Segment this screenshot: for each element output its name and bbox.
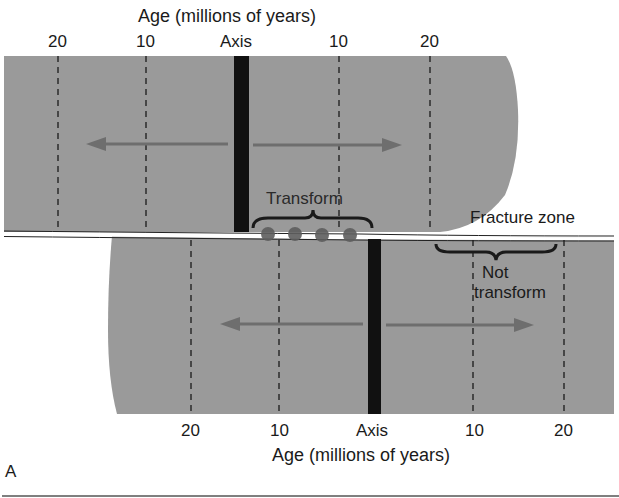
bottom-axis-title: Age (millions of years)	[272, 446, 450, 464]
ridge-transform-diagram	[0, 0, 619, 498]
panel-label: A	[5, 463, 16, 480]
not-transform-label-line1: Not	[482, 264, 508, 281]
bottom-tick-10-right: 10	[465, 422, 484, 439]
bottom-tick-20-left: 20	[181, 422, 200, 439]
top-tick-10-left: 10	[136, 33, 155, 50]
top-tick-axis: Axis	[220, 33, 252, 50]
fracture-zone-label: Fracture zone	[470, 209, 575, 226]
bottom-tick-20-right: 20	[554, 422, 573, 439]
top-tick-20-left: 20	[48, 33, 67, 50]
lower-ridge-axis	[368, 239, 381, 414]
top-tick-20-right: 20	[420, 33, 439, 50]
upper-ridge-axis	[234, 56, 249, 232]
top-axis-title: Age (millions of years)	[138, 7, 316, 25]
top-tick-10-right: 10	[329, 33, 348, 50]
not-transform-label-line2: transform	[474, 284, 546, 301]
bottom-tick-axis: Axis	[356, 422, 388, 439]
transform-label: Transform	[266, 190, 343, 207]
bottom-tick-10-left: 10	[270, 422, 289, 439]
